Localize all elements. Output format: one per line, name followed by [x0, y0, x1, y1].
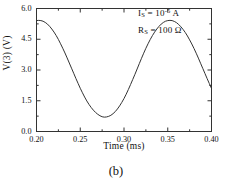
plot-frame — [37, 9, 212, 132]
y-tick-label: 6.0 — [6, 4, 32, 13]
x-axis-title: Time (ms) — [36, 141, 212, 151]
tick-marks — [37, 9, 212, 132]
annotation-series-resistance: RS = 100 Ω — [138, 25, 182, 35]
figure-container: 0.01.53.04.56.0 0.200.250.300.350.40 V(3… — [0, 0, 232, 189]
y-axis-title: V(3) (V) — [2, 20, 12, 86]
waveform-curve — [37, 20, 212, 117]
y-tick-label: 1.5 — [6, 96, 32, 105]
figure-caption: (b) — [0, 164, 232, 179]
plot-area: 0.01.53.04.56.0 0.200.250.300.350.40 V(3… — [0, 0, 232, 160]
annotation-saturation-current: IS = 10-5 A — [138, 7, 179, 18]
